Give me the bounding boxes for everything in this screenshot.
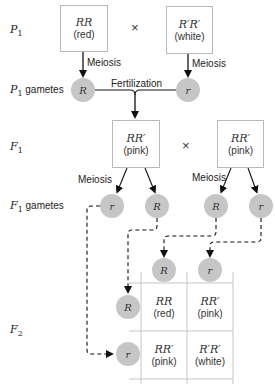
phenotype: (white) xyxy=(195,356,225,368)
f1-gamete-r: r xyxy=(100,194,124,218)
p1-gamete-R: R xyxy=(71,78,95,102)
punnett-cell: RR (red) xyxy=(141,283,187,331)
p1-parent-red: RR (red) xyxy=(60,5,108,52)
genotype: R′R′ xyxy=(179,18,201,31)
p1-parent-white: R′R′ (white) xyxy=(166,6,213,54)
phenotype: (red) xyxy=(73,29,94,41)
phenotype: (pink) xyxy=(228,145,253,157)
f1-offspring-pink-right: RR′ (pink) xyxy=(217,120,264,168)
punnett-row-gamete-R: R xyxy=(116,295,140,319)
phenotype: (pink) xyxy=(151,356,176,368)
cross-symbol-p1: × xyxy=(131,20,139,35)
meiosis-label: Meiosis xyxy=(78,174,112,185)
phenotype: (pink) xyxy=(197,308,222,320)
punnett-row-gamete-r: r xyxy=(116,342,140,366)
genotype: RR xyxy=(156,295,173,308)
cross-symbol-f1: × xyxy=(182,138,190,153)
monohybrid-cross-diagram: P1 P1 gametes F1 F1 gametes F2 RR (red) … xyxy=(0,0,275,386)
meiosis-label: Meiosis xyxy=(192,172,226,183)
row-label-f2: F2 xyxy=(10,323,23,338)
f1-gamete-R: R xyxy=(145,194,169,218)
genotype: RR′ xyxy=(231,132,250,145)
phenotype: (red) xyxy=(153,308,174,320)
punnett-col-gamete-R: R xyxy=(152,258,176,282)
meiosis-label: Meiosis xyxy=(192,58,226,69)
f1-gamete-R: R xyxy=(204,194,228,218)
row-label-p1: P1 xyxy=(10,23,23,38)
genotype: RR xyxy=(76,16,93,29)
punnett-cell: RR′ (pink) xyxy=(141,331,187,379)
genotype: RR′ xyxy=(154,343,173,356)
meiosis-label: Meiosis xyxy=(87,57,121,68)
punnett-col-gamete-r: r xyxy=(198,258,222,282)
phenotype: (pink) xyxy=(123,145,148,157)
genotype: R′R′ xyxy=(199,343,221,356)
punnett-cell: RR′ (pink) xyxy=(187,283,233,331)
fertilization-label: Fertilization xyxy=(111,78,162,89)
row-label-f1-gametes: F1 gametes xyxy=(10,199,64,214)
p1-gamete-r: r xyxy=(176,78,200,102)
f1-offspring-pink-left: RR′ (pink) xyxy=(112,120,160,168)
genotype: RR′ xyxy=(200,295,219,308)
row-label-f1: F1 xyxy=(10,140,23,155)
phenotype: (white) xyxy=(174,31,204,43)
row-label-p1-gametes: P1 gametes xyxy=(10,83,64,98)
f1-gamete-r: r xyxy=(249,194,273,218)
connector-lines xyxy=(0,0,275,386)
punnett-cell: R′R′ (white) xyxy=(187,331,233,379)
genotype: RR′ xyxy=(126,132,145,145)
